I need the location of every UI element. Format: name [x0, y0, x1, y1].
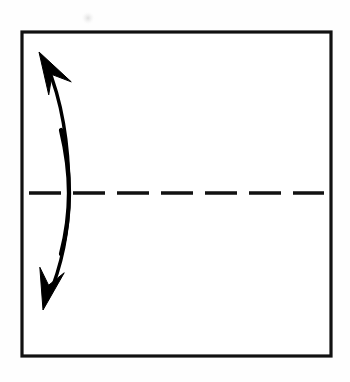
- diagram-canvas: [0, 0, 350, 382]
- scan-artifact: [81, 11, 95, 25]
- origami-figure: Valley fold in half along horizontal cre…: [0, 0, 350, 382]
